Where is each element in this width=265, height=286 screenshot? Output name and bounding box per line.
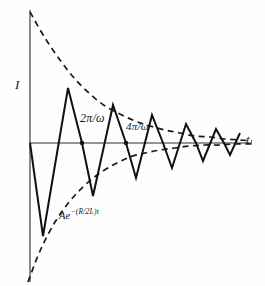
envelope-base: Ae [59,210,70,221]
period-label-4pi-over-omega: 4π/ω [126,121,149,132]
damped-oscillation-figure: I t 2π/ω 4π/ω Ae−(R/2L)t [0,0,265,286]
x-axis-label: t [246,133,250,146]
axis-tick-dot [80,141,84,145]
axis-tick-dot [124,141,128,145]
period-label-2pi-over-omega: 2π/ω [80,112,105,124]
plot-canvas [0,0,265,286]
envelope-equation-label: Ae−(R/2L)t [59,208,99,221]
envelope-exponent: −(R/2L)t [70,207,99,216]
y-axis-label: I [15,78,20,91]
